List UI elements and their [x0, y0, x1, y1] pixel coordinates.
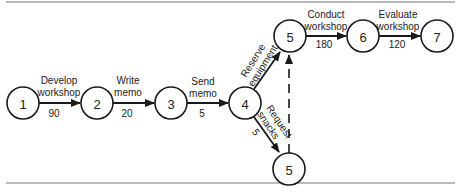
- edge-duration: 5: [250, 127, 262, 138]
- edge-send-memo: Send memo 5: [187, 76, 228, 119]
- edge-duration: 20: [121, 108, 133, 119]
- node-label: 1: [19, 97, 26, 112]
- edge-label: Evaluate: [379, 9, 418, 20]
- node-label: 7: [433, 30, 440, 45]
- edge-develop-workshop: Develop workshop 90: [37, 75, 81, 119]
- edge-label: Conduct: [307, 9, 344, 20]
- node-4: 4: [229, 87, 261, 119]
- node-6: 6: [347, 20, 379, 52]
- edge-label: workshop: [37, 87, 81, 98]
- node-label: 2: [93, 97, 100, 112]
- edge-label: Send: [191, 76, 214, 87]
- node-5-top: 5: [274, 20, 306, 52]
- edge-label: workshop: [304, 21, 348, 32]
- edge-label: memo: [189, 88, 217, 99]
- edge-reserve-equipment: Reserve equipment: [236, 37, 280, 89]
- edge-duration: 90: [48, 108, 60, 119]
- edge-write-memo: Write memo 20: [113, 75, 154, 119]
- edge-label: Develop: [41, 75, 78, 86]
- edge-conduct-workshop: Conduct workshop 180: [304, 9, 348, 50]
- node-7: 7: [421, 20, 453, 52]
- node-label: 5: [285, 163, 292, 178]
- node-3: 3: [155, 87, 187, 119]
- node-label: 3: [167, 97, 174, 112]
- edge-duration: 180: [316, 39, 333, 50]
- edge-evaluate-workshop: Evaluate workshop 120: [376, 9, 420, 50]
- edge-label: Write: [116, 75, 140, 86]
- node-2: 2: [81, 87, 113, 119]
- edge-duration: 120: [389, 39, 406, 50]
- edge-label: workshop: [376, 21, 420, 32]
- node-5-bottom: 5: [273, 153, 305, 185]
- edge-label: memo: [114, 87, 142, 98]
- node-1: 1: [7, 87, 39, 119]
- node-label: 5: [286, 30, 293, 45]
- node-label: 4: [241, 97, 248, 112]
- edge-duration: 5: [199, 108, 205, 119]
- network-diagram: Develop workshop 90 Write memo 20 Send m…: [0, 0, 460, 195]
- node-label: 6: [359, 30, 366, 45]
